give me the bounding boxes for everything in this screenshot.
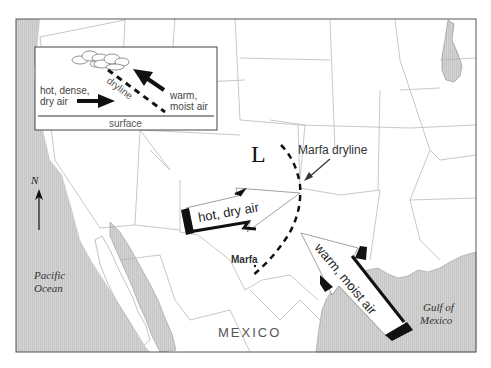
inset-surface-label: surface xyxy=(109,118,142,129)
pacific-label-2: Ocean xyxy=(34,282,63,294)
north-label: N xyxy=(30,174,39,186)
marfa-city-label: Marfa xyxy=(231,254,258,265)
pacific-label-1: Pacific xyxy=(33,269,65,281)
country-label-mexico: MEXICO xyxy=(218,325,281,340)
dryline-map: dryline hot, dense, dry air warm, moist … xyxy=(0,0,491,368)
svg-text:Pacific Ocean: Pacific Ocean xyxy=(33,269,68,294)
gulf-label-2: Mexico xyxy=(419,314,453,326)
inset-right-label-1: warm, xyxy=(169,90,197,101)
marfa-dryline-label: Marfa dryline xyxy=(298,143,368,157)
dryline-inset: dryline hot, dense, dry air warm, moist … xyxy=(35,47,217,130)
marfa-city-dot xyxy=(254,265,256,267)
gulf-label-1: Gulf of xyxy=(423,301,456,313)
svg-text:Gulf of Mexico: Gulf of Mexico xyxy=(419,301,457,326)
inset-left-label-2: dry air xyxy=(40,96,68,107)
inset-left-label-1: hot, dense, xyxy=(40,85,89,96)
inset-right-label-2: moist air xyxy=(170,101,208,112)
low-pressure-symbol: L xyxy=(251,141,266,167)
